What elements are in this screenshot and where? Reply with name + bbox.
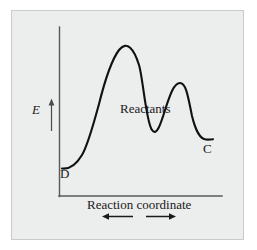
start-point-label-d: D (60, 167, 69, 180)
reactants-label: Reactants (120, 102, 171, 115)
right-direction-arrow-head (169, 213, 176, 219)
energy-increase-arrow-head (49, 99, 55, 106)
left-direction-arrow-head (102, 213, 109, 219)
y-axis-label: E (32, 103, 40, 116)
plot-canvas (0, 0, 257, 250)
reaction-energy-diagram: E D C Reactants Reaction coordinate (0, 0, 257, 250)
x-axis-label: Reaction coordinate (87, 198, 191, 211)
end-point-label-c: C (203, 142, 212, 155)
